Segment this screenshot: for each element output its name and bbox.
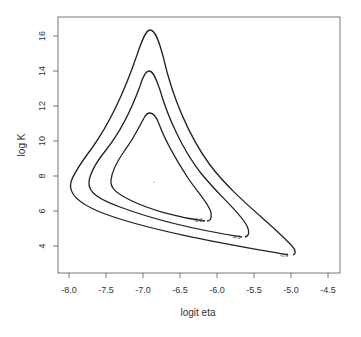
x-axis-title: logit eta — [180, 307, 215, 318]
center-point-marker — [154, 182, 155, 183]
contour-label: -4.6 — [232, 234, 241, 240]
x-tick-label: -7.5 — [98, 285, 114, 295]
y-tick-label: 16 — [37, 31, 47, 41]
y-tick-label: 12 — [37, 101, 47, 111]
y-tick-label: 4 — [37, 243, 47, 248]
contour-line-outer — [70, 30, 295, 255]
x-tick-labels: -8.0 -7.5 -7.0 -6.5 -6.0 -5.5 -5.0 -4.5 — [61, 285, 336, 295]
y-tick-label: 8 — [37, 173, 47, 178]
contour-line-middle — [89, 71, 249, 237]
contour-label: -2.3 — [194, 217, 203, 223]
x-tick-label: -8.0 — [61, 285, 77, 295]
y-tick-label: 10 — [37, 136, 47, 146]
y-axis-title: log K — [16, 133, 27, 156]
x-tick-label: -6.0 — [209, 285, 225, 295]
y-tick-label: 6 — [37, 208, 47, 213]
x-tick-label: -7.0 — [135, 285, 151, 295]
x-tick-label: -4.5 — [320, 285, 336, 295]
x-tick-label: -5.0 — [283, 285, 299, 295]
plot-frame — [58, 17, 340, 273]
y-tick-label: 14 — [37, 66, 47, 76]
x-tick-label: -5.5 — [246, 285, 262, 295]
y-tick-labels: 4 6 8 10 12 14 16 — [37, 31, 47, 249]
contour-label: -6.9 — [280, 252, 289, 258]
x-axis — [69, 273, 328, 278]
contour-plot: -8.0 -7.5 -7.0 -6.5 -6.0 -5.5 -5.0 -4.5 … — [0, 0, 361, 337]
y-axis — [53, 36, 58, 246]
x-tick-label: -6.5 — [172, 285, 188, 295]
